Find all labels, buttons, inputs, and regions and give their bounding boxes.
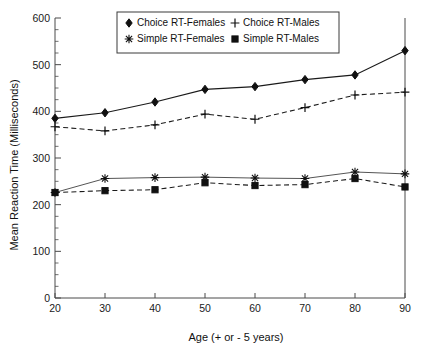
- data-point-square: [52, 189, 58, 195]
- axis-spines: [55, 18, 405, 298]
- marker-diamond: [402, 46, 408, 54]
- data-point-diamond: [102, 109, 108, 117]
- y-axis-ticks: [55, 18, 61, 298]
- marker-diamond: [252, 82, 258, 90]
- marker-plus: [301, 103, 310, 112]
- data-point-diamond: [352, 71, 358, 79]
- data-point-square: [302, 182, 308, 188]
- legend-item-choice-rt-males[interactable]: Choice RT-Males: [231, 17, 320, 28]
- marker-plus: [201, 110, 210, 119]
- data-point-plus: [251, 115, 260, 124]
- y-tick-label: 400: [32, 105, 50, 117]
- data-point-asterisk: [401, 170, 410, 179]
- marker-plus: [251, 115, 260, 124]
- reaction-time-line-chart: 2030405060708090 0100200300400500600 Cho…: [0, 0, 421, 351]
- chart-legend: Choice RT-FemalesChoice RT-MalesSimple R…: [117, 12, 339, 53]
- y-tick-label: 600: [32, 12, 50, 24]
- data-point-square: [232, 36, 238, 42]
- marker-asterisk: [151, 173, 160, 182]
- legend-item-label: Simple RT-Males: [243, 33, 319, 44]
- y-axis-tick-labels: 0100200300400500600: [32, 12, 50, 304]
- chart-series-layer: [51, 46, 410, 196]
- data-point-diamond: [302, 75, 308, 83]
- marker-square: [302, 182, 308, 188]
- data-point-asterisk: [151, 173, 160, 182]
- x-tick-label: 40: [149, 302, 161, 314]
- series-line: [55, 51, 405, 119]
- legend-item-simple-rt-females[interactable]: Simple RT-Females: [125, 33, 225, 44]
- marker-square: [352, 175, 358, 181]
- y-axis-title: Mean Reaction Time (Milliseconds): [8, 79, 20, 250]
- y-tick-label: 100: [32, 245, 50, 257]
- data-point-plus: [201, 110, 210, 119]
- y-tick-label: 200: [32, 199, 50, 211]
- marker-asterisk: [251, 174, 260, 183]
- y-tick-label: 500: [32, 59, 50, 71]
- legend-item-simple-rt-males[interactable]: Simple RT-Males: [232, 33, 319, 44]
- marker-diamond: [102, 109, 108, 117]
- marker-plus: [351, 91, 360, 100]
- data-point-plus: [151, 120, 160, 129]
- chart-canvas: 2030405060708090 0100200300400500600 Cho…: [0, 0, 421, 351]
- legend-item-label: Choice RT-Females: [137, 17, 225, 28]
- marker-diamond: [352, 71, 358, 79]
- y-tick-label: 300: [32, 152, 50, 164]
- data-point-diamond: [252, 82, 258, 90]
- legend-item-label: Simple RT-Females: [137, 33, 225, 44]
- data-point-square: [202, 180, 208, 186]
- legend-item-label: Choice RT-Males: [243, 17, 320, 28]
- marker-square: [52, 189, 58, 195]
- marker-plus: [151, 120, 160, 129]
- marker-diamond: [152, 98, 158, 106]
- chart-axes: [55, 18, 405, 298]
- x-tick-label: 50: [199, 302, 211, 314]
- marker-diamond: [52, 114, 58, 122]
- y-tick-label: 0: [44, 292, 50, 304]
- data-point-square: [252, 182, 258, 188]
- marker-asterisk: [101, 174, 110, 183]
- data-point-plus: [301, 103, 310, 112]
- x-axis-tick-labels: 2030405060708090: [49, 302, 411, 314]
- data-point-asterisk: [101, 174, 110, 183]
- data-point-square: [352, 175, 358, 181]
- data-point-plus: [51, 122, 60, 131]
- x-axis-ticks: [55, 293, 405, 298]
- marker-square: [152, 187, 158, 193]
- data-point-plus: [101, 127, 110, 136]
- x-tick-label: 60: [249, 302, 261, 314]
- marker-diamond: [202, 85, 208, 93]
- data-point-diamond: [52, 114, 58, 122]
- data-point-square: [152, 187, 158, 193]
- data-point-asterisk: [251, 174, 260, 183]
- marker-square: [232, 36, 238, 42]
- marker-plus: [51, 122, 60, 131]
- data-point-diamond: [202, 85, 208, 93]
- x-tick-label: 70: [299, 302, 311, 314]
- x-tick-label: 90: [399, 302, 411, 314]
- series-choice-rt-females: [52, 46, 408, 122]
- x-tick-label: 80: [349, 302, 361, 314]
- data-point-square: [402, 184, 408, 190]
- data-point-diamond: [152, 98, 158, 106]
- marker-plus: [401, 88, 410, 97]
- data-point-square: [102, 188, 108, 194]
- x-tick-label: 20: [49, 302, 61, 314]
- legend-item-choice-rt-females[interactable]: Choice RT-Females: [126, 17, 225, 28]
- marker-plus: [101, 127, 110, 136]
- marker-diamond: [302, 75, 308, 83]
- marker-square: [202, 180, 208, 186]
- data-point-asterisk: [125, 35, 134, 44]
- marker-square: [252, 182, 258, 188]
- marker-asterisk: [401, 170, 410, 179]
- x-tick-label: 30: [99, 302, 111, 314]
- marker-square: [402, 184, 408, 190]
- marker-square: [102, 188, 108, 194]
- data-point-plus: [351, 91, 360, 100]
- data-point-diamond: [402, 46, 408, 54]
- marker-asterisk: [125, 35, 134, 44]
- x-axis-title: Age (+ or - 5 years): [188, 331, 283, 343]
- data-point-plus: [401, 88, 410, 97]
